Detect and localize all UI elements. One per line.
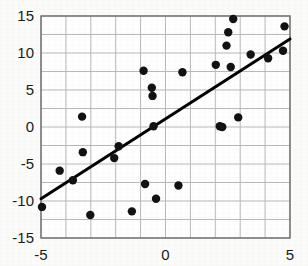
scatter-plot-figure: -505 -15-10-5051015 [0,0,308,266]
plot-canvas: -505 -15-10-5051015 [0,0,308,266]
data-point [218,123,226,131]
y-tick-label: -5 [21,155,34,172]
data-point [280,22,288,30]
x-tick-label: 0 [161,246,169,263]
data-point [128,207,136,215]
data-point [149,122,157,130]
data-point [227,63,235,71]
grid-lines [41,16,290,238]
y-tick-label: 5 [26,81,34,98]
y-tick-label: 15 [17,7,34,24]
data-point [79,148,87,156]
data-point [139,67,147,75]
data-point [174,181,182,189]
data-point [55,166,63,174]
data-point [222,41,230,49]
y-tick-label: 0 [26,118,34,135]
data-point [178,68,186,76]
x-tick-label: 5 [286,246,294,263]
data-point [264,54,272,62]
data-point [212,61,220,69]
data-point [110,154,118,162]
y-tick-label: -15 [12,229,34,246]
data-point [234,113,242,121]
data-point [141,180,149,188]
data-point [148,84,156,92]
data-point [86,211,94,219]
data-point [38,203,46,211]
y-tick-label: 10 [17,44,34,61]
data-point [69,176,77,184]
y-tick-label: -10 [12,192,34,209]
data-point [229,15,237,23]
data-point [114,142,122,150]
x-tick-label: -5 [34,246,47,263]
y-axis-tick-labels: -15-10-5051015 [12,7,34,246]
data-point [224,28,232,36]
data-point [152,195,160,203]
data-point [246,50,254,58]
x-axis-tick-labels: -505 [34,246,294,263]
data-point [78,112,86,120]
data-point [148,92,156,100]
data-point [279,47,287,55]
